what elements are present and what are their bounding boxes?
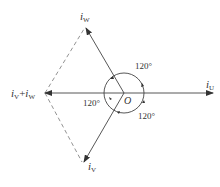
phasor-diagram: iU iW iV iV+iW O 120° 120° 120° xyxy=(0,0,220,187)
dashed-line-lower xyxy=(45,93,82,162)
angle-label-lower-right: 120° xyxy=(138,111,156,121)
dashed-line-upper xyxy=(45,29,84,93)
label-iU: iU xyxy=(206,78,214,92)
label-sum: iV+iW xyxy=(11,87,35,101)
angle-label-upper-right: 120° xyxy=(135,61,153,71)
label-iW: iW xyxy=(80,10,90,24)
circle-arrow-5 xyxy=(109,97,112,100)
label-iV: iV xyxy=(88,160,96,174)
origin-label: O xyxy=(124,95,131,106)
vector-iW xyxy=(86,28,124,93)
angle-label-left: 120° xyxy=(83,98,101,108)
